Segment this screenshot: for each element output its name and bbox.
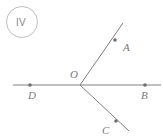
point-marker-a <box>113 38 117 42</box>
point-label-c: C <box>102 124 110 136</box>
ray-oa <box>80 23 123 85</box>
point-label-o: O <box>70 68 78 80</box>
point-label-b: B <box>141 89 148 101</box>
point-label-a: A <box>122 41 130 53</box>
figure-number-badge-label: IV <box>16 17 26 28</box>
point-label-d: D <box>27 89 36 101</box>
point-marker-b <box>143 83 147 87</box>
point-marker-d <box>28 83 32 87</box>
geometry-diagram: IV O D B A C <box>0 0 163 137</box>
geometry-figure-canvas: IV O D B A C <box>0 0 163 137</box>
point-marker-c <box>114 119 118 123</box>
